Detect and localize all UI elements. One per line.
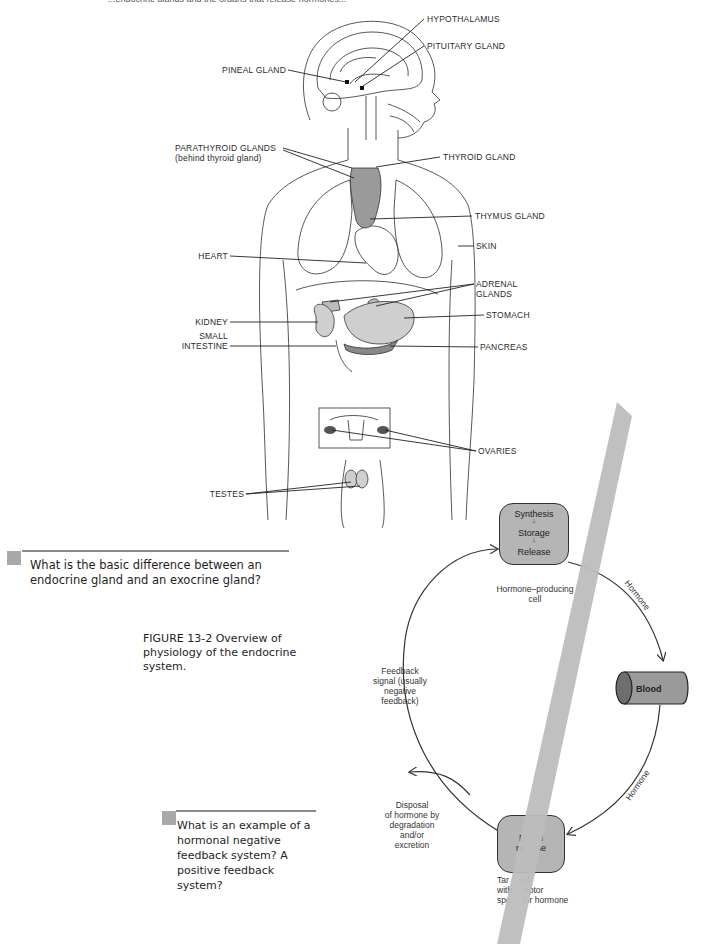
- diagonal-overlay-strip: [0, 0, 703, 944]
